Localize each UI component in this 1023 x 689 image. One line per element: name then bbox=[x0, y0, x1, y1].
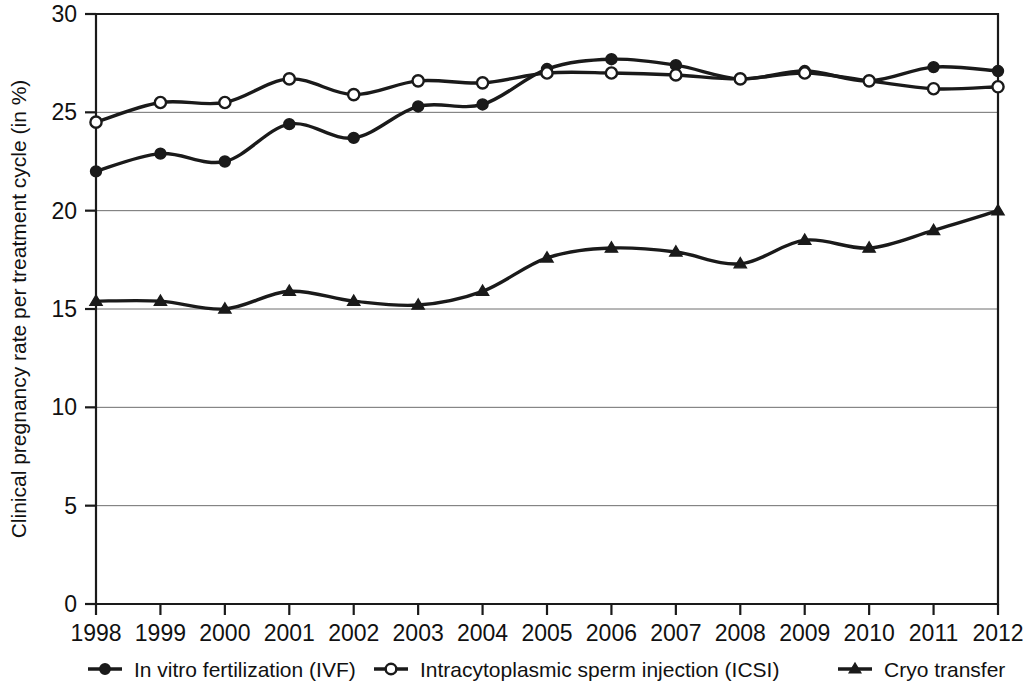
data-point-marker bbox=[413, 101, 424, 112]
data-point-marker bbox=[541, 67, 552, 78]
data-point-marker bbox=[284, 119, 295, 130]
data-point-marker bbox=[864, 75, 875, 86]
data-point-marker bbox=[928, 62, 939, 73]
x-tick-label: 2004 bbox=[457, 620, 508, 646]
chart-figure: 051015202530 199819992000200120022003200… bbox=[0, 0, 1023, 689]
data-series-layer bbox=[90, 54, 1004, 313]
data-point-marker bbox=[670, 69, 681, 80]
y-tick-label: 20 bbox=[51, 198, 77, 224]
y-tick-label: 0 bbox=[64, 591, 77, 617]
y-axis-title: Clinical pregnancy rate per treatment cy… bbox=[7, 80, 30, 539]
x-tick-label: 2005 bbox=[521, 620, 572, 646]
x-tick-label: 2010 bbox=[844, 620, 895, 646]
chart-legend: In vitro fertilization (IVF)Intracytopla… bbox=[88, 658, 1005, 681]
y-tick-label: 30 bbox=[51, 1, 77, 27]
data-point-marker bbox=[928, 83, 939, 94]
x-tick-label: 2009 bbox=[779, 620, 830, 646]
x-tick-label: 2000 bbox=[199, 620, 250, 646]
legend-item-3[interactable]: Cryo transfer bbox=[838, 658, 1005, 681]
data-point-marker bbox=[284, 73, 295, 84]
data-point-marker bbox=[348, 89, 359, 100]
legend-label: In vitro fertilization (IVF) bbox=[134, 658, 356, 681]
x-tick-label: 1999 bbox=[135, 620, 186, 646]
x-tick-label: 2003 bbox=[393, 620, 444, 646]
data-point-marker bbox=[219, 97, 230, 108]
data-point-marker bbox=[155, 148, 166, 159]
y-axis-ticks bbox=[85, 14, 96, 604]
x-tick-label: 2006 bbox=[586, 620, 637, 646]
legend-item-2[interactable]: Intracytoplasmic sperm injection (ICSI) bbox=[374, 658, 779, 681]
y-tick-label: 15 bbox=[51, 296, 77, 322]
x-tick-label: 2011 bbox=[909, 620, 958, 646]
y-tick-label: 10 bbox=[51, 394, 77, 420]
data-point-marker bbox=[90, 117, 101, 128]
data-point-marker bbox=[348, 133, 359, 144]
x-tick-label: 2002 bbox=[328, 620, 379, 646]
x-tick-label: 2008 bbox=[715, 620, 766, 646]
data-point-marker bbox=[606, 67, 617, 78]
y-axis-tick-labels: 051015202530 bbox=[51, 1, 77, 617]
data-point-marker bbox=[219, 156, 230, 167]
y-tick-label: 5 bbox=[64, 493, 77, 519]
data-point-marker bbox=[413, 75, 424, 86]
x-tick-label: 1998 bbox=[70, 620, 121, 646]
data-point-marker bbox=[155, 97, 166, 108]
legend-item-1[interactable]: In vitro fertilization (IVF) bbox=[88, 658, 356, 681]
data-point-marker bbox=[735, 73, 746, 84]
data-point-marker bbox=[477, 77, 488, 88]
series-3 bbox=[90, 205, 1004, 314]
data-point-marker bbox=[91, 166, 102, 177]
x-axis-tick-labels: 1998199920002001200220032004200520062007… bbox=[70, 620, 1023, 646]
x-tick-label: 2001 bbox=[264, 620, 315, 646]
data-point-marker bbox=[386, 664, 397, 675]
series-2 bbox=[90, 67, 1003, 127]
x-tick-label: 2012 bbox=[972, 620, 1023, 646]
x-axis-ticks bbox=[96, 604, 998, 615]
data-point-marker bbox=[477, 99, 488, 110]
data-point-marker bbox=[993, 66, 1004, 77]
x-tick-label: 2007 bbox=[650, 620, 701, 646]
data-point-marker bbox=[992, 205, 1004, 215]
data-point-marker bbox=[606, 54, 617, 65]
legend-label: Intracytoplasmic sperm injection (ICSI) bbox=[420, 658, 779, 681]
data-point-marker bbox=[799, 67, 810, 78]
legend-label: Cryo transfer bbox=[884, 658, 1005, 681]
data-point-marker bbox=[992, 81, 1003, 92]
y-tick-label: 25 bbox=[51, 99, 77, 125]
line-chart: 051015202530 199819992000200120022003200… bbox=[0, 0, 1023, 689]
data-point-marker bbox=[100, 664, 110, 674]
